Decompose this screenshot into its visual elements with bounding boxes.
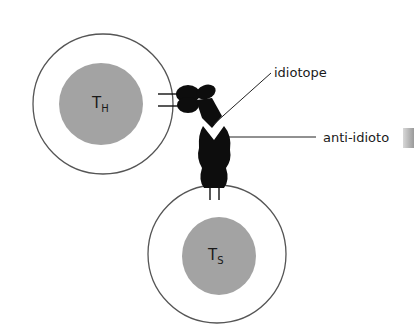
anti-idiotype-receptor [198, 126, 231, 188]
suppressor-cell-label: TS [208, 248, 224, 266]
helper-cell-label: TH [92, 96, 109, 114]
idiotope-label: idiotope [274, 66, 327, 79]
anti-idiotope-label: anti-idioto [323, 131, 389, 144]
page-edge-shadow [403, 128, 414, 148]
idiotype-receptor [176, 82, 222, 128]
diagram-canvas [0, 0, 414, 330]
idiotope-leader-line [214, 73, 271, 124]
